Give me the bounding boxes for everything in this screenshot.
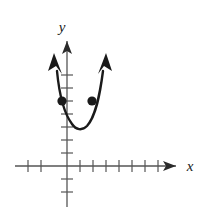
marked-point-right <box>87 96 96 105</box>
right-branch-arrow-icon <box>98 53 112 74</box>
graph-figure: y x <box>0 0 205 221</box>
left-branch-arrow-icon <box>48 53 62 74</box>
marked-point-left <box>57 96 66 105</box>
coordinate-plane: y x <box>0 0 205 221</box>
y-axis-label: y <box>57 19 66 35</box>
x-axis-label: x <box>186 158 194 174</box>
